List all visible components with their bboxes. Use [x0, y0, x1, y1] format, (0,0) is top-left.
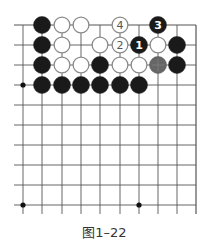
stones-layer: 4321	[34, 17, 186, 94]
white-stone-2: 2	[112, 37, 128, 53]
black-stone	[169, 37, 186, 54]
black-stone	[131, 77, 148, 94]
white-stone	[54, 37, 70, 53]
black-stone	[34, 77, 51, 94]
white-stone	[112, 57, 128, 73]
black-stone	[54, 77, 71, 94]
go-board: 4321	[0, 0, 209, 220]
black-stone	[112, 77, 129, 94]
black-stone	[73, 77, 90, 94]
white-stone	[131, 57, 147, 73]
black-stone	[34, 17, 51, 34]
star-point	[136, 202, 141, 207]
black-stone	[34, 57, 51, 74]
black-stone-3: 3	[150, 17, 167, 34]
white-stone	[73, 57, 89, 73]
black-stone	[34, 37, 51, 54]
black-stone	[92, 77, 109, 94]
white-stone	[54, 57, 70, 73]
move-number-label: 2	[117, 39, 124, 52]
white-stone	[54, 17, 70, 33]
black-stone	[169, 57, 186, 74]
black-stone-1: 1	[131, 37, 148, 54]
move-number-label: 1	[135, 39, 143, 52]
white-stone-4: 4	[112, 17, 128, 33]
move-number-label: 4	[117, 19, 124, 32]
star-point	[20, 202, 25, 207]
white-stone	[92, 37, 108, 53]
white-stone	[150, 37, 166, 53]
move-number-label: 3	[154, 19, 162, 32]
gray-stone	[150, 57, 167, 74]
figure-caption: 图1–22	[0, 222, 209, 241]
white-stone	[73, 17, 89, 33]
star-point	[20, 82, 25, 87]
black-stone	[92, 57, 109, 74]
